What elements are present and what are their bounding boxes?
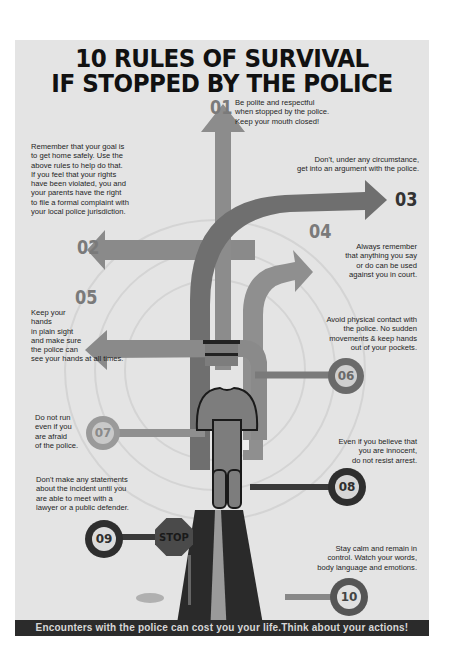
- rule-07-text: Do not runeven if youare afraidof the po…: [35, 413, 78, 450]
- rule-04-text: Always rememberthat anything you sayor d…: [345, 242, 417, 279]
- rule-07-badge: 07: [86, 416, 120, 450]
- rule-04-number: 04: [309, 220, 331, 242]
- rule-03-number: 03: [395, 188, 417, 210]
- rule-10-badge: 10: [330, 578, 368, 616]
- rule-08-badge: 08: [328, 468, 366, 506]
- rule-03-text: Don't, under any circumstance,get into a…: [297, 155, 419, 174]
- rule-05-number: 05: [75, 286, 97, 308]
- rule-10-text: Stay calm and remain incontrol. Watch yo…: [317, 544, 417, 572]
- page-title: 10 RULES OF SURVIVAL IF STOPPED BY THE P…: [32, 46, 413, 96]
- infographic-poster: 10 RULES OF SURVIVAL IF STOPPED BY THE P…: [15, 40, 429, 636]
- rule-06-badge: 06: [328, 358, 364, 394]
- rule-01-text: Be polite and respectfulwhen stopped by …: [235, 98, 329, 126]
- rule-02-text: Remember that your goal isto get home sa…: [31, 142, 129, 216]
- rule-02-number: 02: [77, 236, 99, 258]
- stop-sign-icon: STOP: [155, 518, 193, 556]
- rule-09-badge: 09: [85, 520, 123, 558]
- rule-09-text: Don't make any statementsabout the incid…: [36, 475, 129, 512]
- title-line-2: IF STOPPED BY THE POLICE: [32, 71, 413, 96]
- rule-08-text: Even if you believe thatyou are innocent…: [338, 437, 417, 465]
- title-line-1: 10 RULES OF SURVIVAL: [32, 46, 413, 71]
- rule-01-number: 01: [210, 96, 232, 118]
- footer-banner: Encounters with the police can cost you …: [15, 620, 429, 636]
- rule-06-text: Avoid physical contact withthe police. N…: [326, 315, 417, 352]
- rule-05-text: Keep yourhandsin plain sight and make su…: [31, 308, 123, 364]
